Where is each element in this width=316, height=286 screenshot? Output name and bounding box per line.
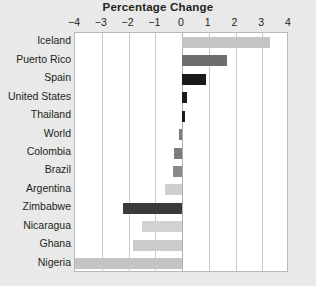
bar bbox=[133, 240, 182, 251]
chart-title: Percentage Change bbox=[0, 1, 316, 13]
y-tick-label: Puerto Rico bbox=[0, 53, 71, 65]
bar bbox=[142, 221, 182, 232]
bar-chart: Percentage Change −4−3−2−101234 IcelandP… bbox=[0, 0, 316, 286]
y-tick-label: United States bbox=[0, 90, 71, 102]
y-tick-label: Nigeria bbox=[0, 256, 71, 268]
x-tick-label: 3 bbox=[249, 16, 273, 28]
x-tick-label: −1 bbox=[142, 16, 166, 28]
x-tick-label: −3 bbox=[89, 16, 113, 28]
bar bbox=[182, 74, 206, 85]
y-tick-label: Argentina bbox=[0, 182, 71, 194]
y-tick-label: Thailand bbox=[0, 108, 71, 120]
y-tick-label: Zimbabwe bbox=[0, 200, 71, 212]
y-axis-category-labels: IcelandPuerto RicoSpainUnited StatesThai… bbox=[0, 32, 71, 272]
bar bbox=[182, 111, 185, 122]
x-tick-label: −4 bbox=[62, 16, 86, 28]
x-tick-label: 4 bbox=[276, 16, 300, 28]
bars-container bbox=[75, 33, 287, 271]
y-tick-label: Nicaragua bbox=[0, 219, 71, 231]
bar bbox=[174, 148, 182, 159]
bar bbox=[123, 203, 182, 214]
bar bbox=[179, 129, 182, 140]
bar bbox=[75, 258, 182, 269]
bar bbox=[165, 184, 182, 195]
y-tick-label: Iceland bbox=[0, 34, 71, 46]
x-axis-tick-labels: −4−3−2−101234 bbox=[0, 16, 316, 30]
y-tick-label: Spain bbox=[0, 71, 71, 83]
bar bbox=[182, 37, 270, 48]
x-tick-label: 2 bbox=[223, 16, 247, 28]
y-tick-label: Brazil bbox=[0, 163, 71, 175]
y-tick-label: Colombia bbox=[0, 145, 71, 157]
bar bbox=[173, 166, 182, 177]
x-tick-label: −2 bbox=[116, 16, 140, 28]
y-tick-label: Ghana bbox=[0, 237, 71, 249]
bar bbox=[182, 55, 227, 66]
plot-area bbox=[74, 32, 288, 272]
x-tick-label: 1 bbox=[196, 16, 220, 28]
bar bbox=[182, 92, 187, 103]
x-tick-label: 0 bbox=[169, 16, 193, 28]
y-tick-label: World bbox=[0, 127, 71, 139]
